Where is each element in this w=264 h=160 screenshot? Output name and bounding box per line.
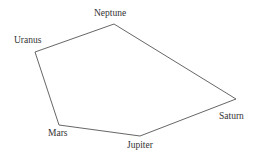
label-uranus: Uranus	[14, 35, 41, 45]
label-jupiter: Jupiter	[127, 140, 153, 150]
polygon-diagram	[0, 0, 264, 160]
label-saturn: Saturn	[219, 111, 244, 121]
planet-polygon	[35, 24, 236, 136]
label-neptune: Neptune	[94, 8, 126, 18]
label-mars: Mars	[48, 128, 68, 138]
